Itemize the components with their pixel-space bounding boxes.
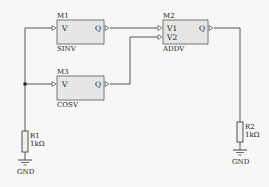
ground-icon xyxy=(233,150,247,155)
resistor-r1[interactable]: R1 1kΩ xyxy=(22,131,45,152)
module-m3[interactable]: M3 COSV V Q xyxy=(52,68,109,109)
module-m3-pin-q: Q xyxy=(95,80,101,89)
module-m1-name: SINV xyxy=(57,45,77,53)
module-m2-name: ADDV xyxy=(162,45,185,53)
module-m3-pin-v: V xyxy=(61,80,68,89)
resistor-r2-id: R2 xyxy=(245,123,255,131)
module-m1-id: M1 xyxy=(57,12,69,20)
ground-1[interactable]: GND xyxy=(17,160,35,176)
module-m2-pin-q: Q xyxy=(199,24,205,33)
module-m1[interactable]: M1 SINV V Q xyxy=(52,12,109,53)
input-port-icon xyxy=(158,35,162,40)
module-m2-id: M2 xyxy=(163,12,175,20)
output-port-icon xyxy=(105,26,109,31)
input-port-icon xyxy=(52,82,56,87)
resistor-icon[interactable] xyxy=(22,131,28,152)
resistor-r1-id: R1 xyxy=(30,132,40,140)
wire-m2-q-to-r2 xyxy=(214,28,240,122)
wire-m3-q-to-m2-v2 xyxy=(110,37,158,84)
input-port-icon xyxy=(158,26,162,31)
input-port-icon xyxy=(52,26,56,31)
junction-dot xyxy=(24,83,27,86)
wire-r1-to-m1-v xyxy=(25,28,52,131)
ground-2[interactable]: GND xyxy=(232,150,250,166)
resistor-r2[interactable]: R2 1kΩ xyxy=(237,122,260,142)
module-m2-pin-v2: V2 xyxy=(166,33,177,42)
module-m3-id: M3 xyxy=(57,68,69,76)
module-m3-name: COSV xyxy=(57,101,79,109)
ground-icon xyxy=(18,160,32,165)
schematic-canvas: M1 SINV V Q M3 COSV V Q M2 ADDV V1 V2 Q … xyxy=(0,0,269,187)
module-m2-pin-v1: V1 xyxy=(166,24,177,33)
resistor-icon[interactable] xyxy=(237,122,243,142)
module-m1-pin-v: V xyxy=(61,24,68,33)
resistor-r1-value: 1kΩ xyxy=(30,140,45,148)
ground-1-label: GND xyxy=(17,168,35,176)
module-m2[interactable]: M2 ADDV V1 V2 Q xyxy=(158,12,213,53)
resistor-r2-value: 1kΩ xyxy=(245,131,260,139)
output-port-icon xyxy=(209,26,213,31)
schematic-svg: M1 SINV V Q M3 COSV V Q M2 ADDV V1 V2 Q … xyxy=(0,0,269,187)
module-m1-pin-q: Q xyxy=(95,24,101,33)
output-port-icon xyxy=(105,82,109,87)
ground-2-label: GND xyxy=(232,158,250,166)
